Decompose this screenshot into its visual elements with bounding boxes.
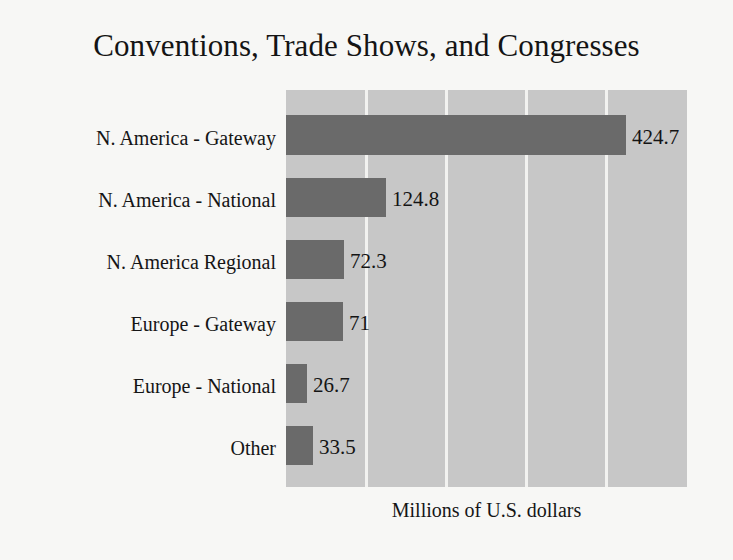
value-label-europe-gateway: 71 bbox=[349, 311, 370, 335]
category-label-europe-national: Europe - National bbox=[0, 374, 276, 398]
category-label-text: Europe - National bbox=[133, 375, 276, 397]
value-label-n-america-national: 124.8 bbox=[392, 187, 439, 211]
category-label-text: N. America - National bbox=[98, 189, 276, 211]
category-label-text: N. America Regional bbox=[107, 251, 276, 273]
category-label-text: Europe - Gateway bbox=[131, 313, 277, 335]
x-axis-title: Millions of U.S. dollars bbox=[286, 497, 687, 523]
category-label-europe-gateway: Europe - Gateway bbox=[0, 312, 276, 336]
value-label-n-america-gateway: 424.7 bbox=[632, 125, 679, 149]
plot-area bbox=[286, 90, 687, 487]
chart-title: Conventions, Trade Shows, and Congresses bbox=[0, 26, 733, 66]
bar-chart-figure: Conventions, Trade Shows, and Congresses… bbox=[0, 0, 733, 560]
bar-europe-gateway bbox=[286, 302, 343, 341]
category-label-n-america-national: N. America - National bbox=[0, 188, 276, 212]
category-label-n-america-gateway: N. America - Gateway bbox=[0, 126, 276, 150]
bar-n-america-national bbox=[286, 178, 386, 217]
bar-europe-national bbox=[286, 364, 307, 403]
bar-n-america-gateway bbox=[286, 115, 626, 155]
category-label-n-america-regional: N. America Regional bbox=[0, 250, 276, 274]
value-label-europe-national: 26.7 bbox=[313, 373, 350, 397]
value-label-n-america-regional: 72.3 bbox=[350, 249, 387, 273]
category-label-other: Other bbox=[0, 436, 276, 460]
value-label-other: 33.5 bbox=[319, 435, 356, 459]
category-label-text: Other bbox=[230, 437, 276, 459]
category-label-text: N. America - Gateway bbox=[96, 127, 276, 149]
bar-other bbox=[286, 426, 313, 465]
bar-n-america-regional bbox=[286, 240, 344, 279]
